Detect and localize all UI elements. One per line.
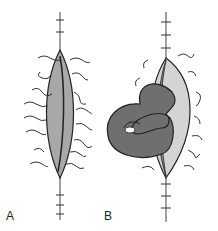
panel-label-b: B	[104, 209, 112, 223]
panel-label-a: A	[6, 209, 14, 223]
incision-illustration	[0, 0, 109, 231]
panel-b-evisceration	[100, 0, 218, 231]
evisceration-illustration	[100, 0, 218, 231]
panel-a-incision	[0, 0, 109, 231]
